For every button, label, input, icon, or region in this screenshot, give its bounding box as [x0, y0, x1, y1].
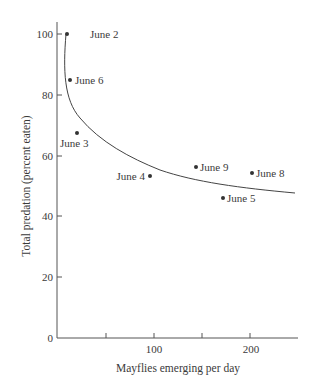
label-june-2: June 2 — [90, 28, 118, 40]
y-tick-20: 20 — [42, 271, 54, 283]
y-tick-80: 80 — [42, 89, 54, 101]
point-june-6 — [68, 78, 72, 82]
point-june-3 — [75, 131, 79, 135]
point-june-4 — [148, 174, 152, 178]
y-axis-title: Total predation (percent eaten) — [20, 115, 33, 256]
y-ticks — [57, 34, 62, 277]
label-june-8: June 8 — [256, 167, 285, 179]
scatter-chart: 100 80 60 40 20 0 100 200 Mayflies emerg… — [0, 0, 317, 387]
y-tick-40: 40 — [42, 210, 54, 222]
point-june-2 — [65, 32, 69, 36]
label-june-6: June 6 — [75, 74, 104, 86]
point-june-5 — [221, 196, 225, 200]
data-points — [65, 32, 254, 200]
y-tick-0: 0 — [48, 332, 54, 344]
x-tick-200: 200 — [243, 343, 260, 355]
y-tick-60: 60 — [42, 150, 54, 162]
x-tick-100: 100 — [146, 343, 163, 355]
label-june-4: June 4 — [117, 170, 146, 182]
x-axis-title: Mayflies emerging per day — [116, 362, 240, 375]
label-june-9: June 9 — [200, 161, 229, 173]
point-june-9 — [194, 165, 198, 169]
y-tick-100: 100 — [37, 28, 54, 40]
label-june-3: June 3 — [60, 137, 89, 149]
label-june-5: June 5 — [227, 192, 256, 204]
point-june-8 — [250, 171, 254, 175]
x-ticks — [106, 333, 250, 338]
